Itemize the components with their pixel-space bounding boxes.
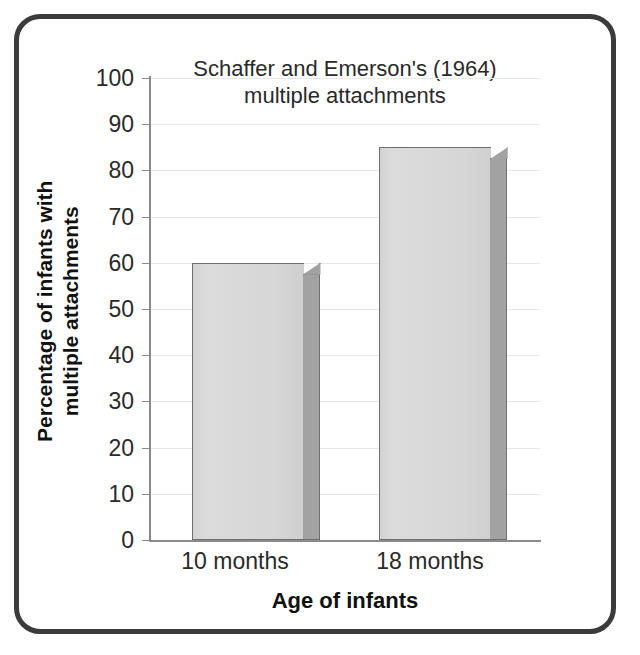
bar-front-face <box>192 263 304 540</box>
y-axis-tick-label-3: 70 <box>74 206 134 229</box>
y-axis-tick-label-0: 100 <box>74 67 134 90</box>
y-axis-tick-label-2: 80 <box>74 159 134 182</box>
x-axis-title: Age of infants <box>150 588 540 614</box>
y-axis-tick-label-5: 50 <box>74 298 134 321</box>
y-axis-tick <box>142 355 150 356</box>
y-axis-tick <box>142 78 150 79</box>
plot-area <box>150 78 540 540</box>
y-axis-tick-label-7: 30 <box>74 390 134 413</box>
y-axis-tick-labels: 1009080706050403020100 <box>72 0 134 655</box>
bar-side-face <box>490 158 507 540</box>
y-axis-tick-label-4: 60 <box>74 252 134 275</box>
y-axis-title-line-1: Percentage of infants with <box>32 101 58 521</box>
bar-10-months <box>192 263 304 540</box>
gridline <box>150 124 540 125</box>
y-axis-tick <box>142 170 150 171</box>
gridline <box>150 78 540 79</box>
x-axis-tick-label-1: 18 months <box>345 548 515 575</box>
y-axis-tick-label-1: 90 <box>74 113 134 136</box>
bar-top-face <box>490 147 508 159</box>
y-axis-tick-label-9: 10 <box>74 483 134 506</box>
bar-side-face <box>303 274 320 540</box>
y-axis-tick-label-10: 0 <box>74 529 134 552</box>
y-axis-tick <box>142 217 150 218</box>
x-axis-tick-label-0: 10 months <box>150 548 320 575</box>
bar-front-face <box>379 147 491 540</box>
y-axis-tick <box>142 124 150 125</box>
y-axis-tick <box>142 309 150 310</box>
bar-18-months <box>379 147 491 540</box>
y-axis-tick-label-8: 20 <box>74 437 134 460</box>
y-axis-tick <box>142 540 150 541</box>
y-axis-tick <box>142 494 150 495</box>
y-axis-tick <box>142 448 150 449</box>
y-axis-tick-label-6: 40 <box>74 344 134 367</box>
figure: Schaffer and Emerson's (1964) multiple a… <box>0 0 640 655</box>
x-axis-line <box>149 540 541 542</box>
bar-top-face <box>303 263 321 275</box>
y-axis-tick <box>142 401 150 402</box>
y-axis-tick <box>142 263 150 264</box>
